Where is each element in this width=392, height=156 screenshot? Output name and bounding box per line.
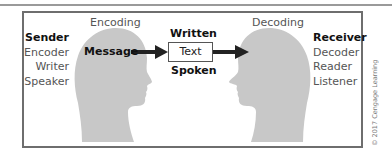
receiver-role: Reader [313,60,367,75]
channel-text-box: Text [168,42,213,62]
sender-role: Encoder [24,46,69,61]
sender-roles: Sender Encoder Writer Speaker [24,31,69,89]
receiver-head-icon [229,28,310,142]
sender-title: Sender [24,31,69,46]
receiver-title: Receiver [313,31,367,46]
message-label: Message [84,45,138,59]
channel-written-label: Written [170,27,217,41]
sender-role: Writer [24,60,69,75]
receiver-role: Decoder [313,46,367,61]
encoding-label: Encoding [90,16,141,30]
receiver-roles: Receiver Decoder Reader Listener [313,31,367,89]
channel-spoken-label: Spoken [171,64,217,78]
decoding-label: Decoding [252,16,304,30]
sender-role: Speaker [24,75,69,90]
receiver-role: Listener [313,75,367,90]
copyright-notice: © 2017 Cengage Learning [371,60,379,146]
